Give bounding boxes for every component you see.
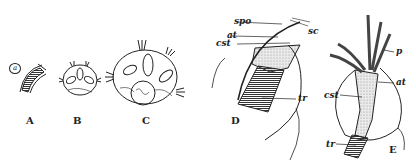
panel-label-e: E <box>389 144 397 155</box>
annotation-tr-d: tr <box>298 93 307 103</box>
panel-label-c: C <box>142 115 150 126</box>
annotation-p: p <box>396 46 402 56</box>
annotation-cst-e: cst <box>324 90 339 100</box>
panel-label-a: A <box>26 115 34 126</box>
panel-e-drawing <box>330 15 404 158</box>
diagram-drawing <box>0 0 416 162</box>
diagram-figure: a A B C D E spo sc at cst tr p at cst tr <box>0 0 416 162</box>
panel-c-drawing <box>105 40 185 105</box>
panel-b-drawing <box>59 61 101 95</box>
annotation-tr-e: tr <box>326 139 335 149</box>
annotation-spo: spo <box>234 16 251 26</box>
panel-a-inset-label: a <box>9 63 21 74</box>
panel-label-b: B <box>73 115 81 126</box>
annotation-at-e: at <box>396 77 406 87</box>
panel-a-drawing <box>20 64 46 93</box>
panel-label-d: D <box>231 115 240 126</box>
annotation-sc: sc <box>308 26 319 36</box>
annotation-cst-d: cst <box>216 38 231 48</box>
